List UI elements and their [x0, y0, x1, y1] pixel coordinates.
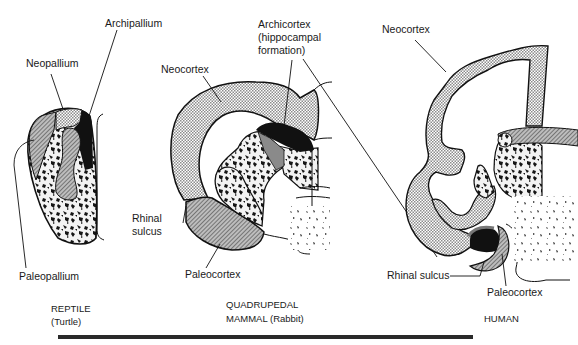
label-rhinal-sulcus-human: Rhinal sulcus	[387, 269, 449, 282]
label-neopallium: Neopallium	[26, 57, 79, 70]
human-brain-section	[406, 46, 578, 282]
caption-rabbit-line1: QUADRUPEDAL	[226, 298, 298, 311]
caption-rabbit-line2: MAMMAL (Rabbit)	[226, 312, 304, 325]
label-neocortex-human: Neocortex	[382, 23, 430, 36]
label-paleocortex-rabbit: Paleocortex	[185, 268, 240, 281]
caption-reptile-line1: REPTILE	[51, 302, 91, 315]
label-neocortex-rabbit: Neocortex	[161, 63, 209, 76]
label-archicortex-line3: formation)	[258, 44, 305, 57]
label-archicortex-line1: Archicortex	[258, 18, 311, 31]
label-paleocortex-human: Paleocortex	[487, 286, 542, 299]
figure-divider-rule	[58, 335, 473, 339]
caption-reptile-line2: (Turtle)	[51, 315, 81, 328]
label-rhinal-line2: sulcus	[132, 225, 162, 238]
label-archipallium: Archipallium	[105, 17, 162, 30]
label-paleopallium: Paleopallium	[19, 270, 79, 283]
label-rhinal-line1: Rhinal	[132, 212, 162, 225]
reptile-brain-section	[28, 108, 104, 244]
rabbit-brain-section	[171, 82, 332, 254]
label-archicortex-line2: (hippocampal	[258, 31, 321, 44]
caption-human: HUMAN	[484, 312, 519, 325]
